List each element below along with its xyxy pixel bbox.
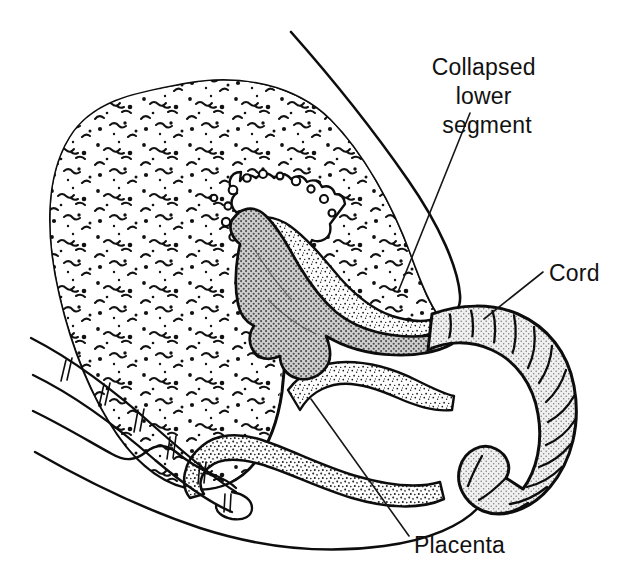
- label-line-lower: lower: [456, 83, 512, 109]
- label-line-segment: segment: [442, 112, 532, 138]
- figure-container: Collapsed lower segment Cord Placenta: [0, 0, 626, 588]
- label-placenta: Placenta: [414, 532, 505, 558]
- label-cord: Cord: [549, 260, 600, 286]
- label-line-collapsed: Collapsed: [432, 54, 536, 80]
- anatomical-illustration: Collapsed lower segment Cord Placenta: [0, 0, 626, 588]
